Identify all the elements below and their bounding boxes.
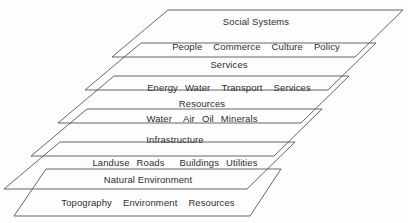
- layer-item: Minerals: [221, 113, 258, 124]
- layer-item: Policy: [314, 41, 340, 52]
- layer-item: Culture: [272, 41, 303, 52]
- diagram-canvas: Social Systems PeopleCommerceCulturePoli…: [0, 0, 408, 223]
- layer-items-resources: WaterAirOilMinerals: [146, 113, 257, 124]
- layer-item: Water: [185, 82, 210, 93]
- layer-item: Commerce: [213, 41, 260, 52]
- layer-items-infrastructure: LanduseRoadsBuildingsUtilities: [92, 157, 257, 168]
- layer-item: People: [172, 41, 202, 52]
- layer-item: Landuse: [92, 157, 129, 168]
- layer-items-natural-environment: TopographyEnvironmentResources: [61, 197, 234, 208]
- layer-title-infrastructure: Infrastructure: [146, 134, 203, 145]
- layer-item: Transport: [221, 82, 262, 93]
- layer-items-social-systems: PeopleCommerceCulturePolicy: [172, 41, 340, 52]
- layer-title-social-systems: Social Systems: [223, 16, 289, 27]
- layer-title-services: Services: [210, 59, 247, 70]
- layered-planes-svg: [0, 0, 408, 223]
- layer-items-services: EnergyWaterTransportServices: [147, 82, 311, 93]
- layer-title-natural-environment: Natural Environment: [104, 174, 193, 185]
- layer-item: Buildings: [180, 157, 219, 168]
- layer-item: Air: [183, 113, 195, 124]
- layer-item: Resources: [188, 197, 234, 208]
- layer-item: Water: [146, 113, 171, 124]
- layer-item: Energy: [147, 82, 178, 93]
- layer-item: Environment: [123, 197, 177, 208]
- layer-title-resources: Resources: [179, 98, 225, 109]
- layer-item: Topography: [61, 197, 112, 208]
- layer-item: Utilities: [226, 157, 258, 168]
- layer-item: Services: [274, 82, 311, 93]
- layer-item: Roads: [137, 157, 165, 168]
- layer-item: Oil: [202, 113, 214, 124]
